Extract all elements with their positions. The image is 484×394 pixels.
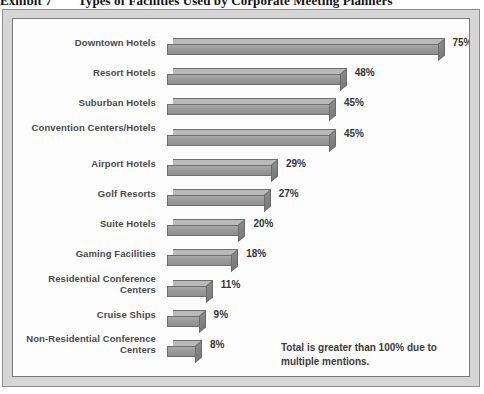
bar-side-face [195, 340, 202, 363]
bar-value-label: 8% [210, 339, 224, 350]
exhibit-title: Exhibit 7Types of Facilities Used by Cor… [0, 0, 484, 9]
bar-row: Golf Resorts27% [13, 180, 469, 210]
page-title: Types of Facilities Used by Corporate Me… [78, 0, 393, 8]
bar-3d [167, 280, 207, 293]
bar-category-label: Gaming Facilities [12, 248, 156, 259]
bar-side-face [238, 219, 245, 242]
bar-value-label: 27% [279, 188, 299, 199]
bar-3d [167, 310, 200, 323]
bar-category-label: Airport Hotels [12, 158, 156, 169]
bar-front-face [167, 74, 341, 85]
bar-row: Residential Conference Centers11% [13, 271, 469, 301]
bar-row: Downtown Hotels75% [13, 29, 469, 59]
bar-category-label: Suite Hotels [12, 218, 156, 229]
bar-category-label: Residential Conference Centers [12, 273, 156, 295]
bar-3d [167, 68, 341, 81]
bar-category-label: Suburban Hotels [12, 97, 156, 108]
figure-inner-border: Downtown Hotels75%Resort Hotels48%Suburb… [12, 18, 470, 377]
bar-front-face [167, 104, 330, 115]
bar-value-label: 48% [355, 67, 375, 78]
bar-value-label: 20% [253, 218, 273, 229]
chart-note: Total is greater than 100% due to multip… [281, 341, 461, 369]
bar-3d [167, 38, 439, 51]
bar-category-label: Convention Centers/Hotels [12, 122, 156, 133]
bar-front-face [167, 165, 272, 176]
bar-category-label: Downtown Hotels [12, 37, 156, 48]
bar-3d [167, 159, 272, 172]
bar-value-label: 18% [246, 248, 266, 259]
bar-side-face [264, 189, 271, 212]
bar-value-label: 29% [286, 158, 306, 169]
bar-front-face [167, 286, 207, 297]
bar-3d [167, 98, 330, 111]
bar-front-face [167, 195, 265, 206]
bar-front-face [167, 225, 239, 236]
bar-row: Cruise Ships9% [13, 301, 469, 331]
bar-row: Suburban Hotels45% [13, 89, 469, 119]
bar-row: Airport Hotels29% [13, 150, 469, 180]
bar-front-face [167, 44, 439, 55]
bar-front-face [167, 346, 196, 357]
bar-side-face [231, 250, 238, 273]
bar-value-label: 45% [344, 128, 364, 139]
bar-3d [167, 129, 330, 142]
bar-value-label: 75% [453, 37, 471, 48]
bar-side-face [271, 159, 278, 182]
bar-value-label: 9% [214, 309, 228, 320]
bar-row: Suite Hotels20% [13, 210, 469, 240]
bar-category-label: Golf Resorts [12, 188, 156, 199]
bar-side-face [329, 99, 336, 122]
bar-front-face [167, 135, 330, 146]
bar-front-face [167, 255, 232, 266]
bar-category-label: Resort Hotels [12, 67, 156, 78]
bar-3d [167, 340, 196, 353]
exhibit-number: Exhibit 7 [0, 0, 78, 9]
bar-category-label: Cruise Ships [12, 309, 156, 320]
chart-plot-area: Downtown Hotels75%Resort Hotels48%Suburb… [13, 19, 469, 376]
bar-value-label: 11% [221, 279, 240, 290]
bar-3d [167, 189, 265, 202]
bar-row: Convention Centers/Hotels45% [13, 120, 469, 150]
bar-category-label: Non-Residential Conference Centers [12, 333, 156, 355]
figure-frame: Downtown Hotels75%Resort Hotels48%Suburb… [2, 9, 480, 387]
bar-3d [167, 249, 232, 262]
bar-front-face [167, 316, 200, 327]
bar-value-label: 45% [344, 97, 364, 108]
bar-side-face [340, 68, 347, 91]
bar-row: Gaming Facilities18% [13, 240, 469, 270]
bar-3d [167, 219, 239, 232]
bar-row: Resort Hotels48% [13, 59, 469, 89]
